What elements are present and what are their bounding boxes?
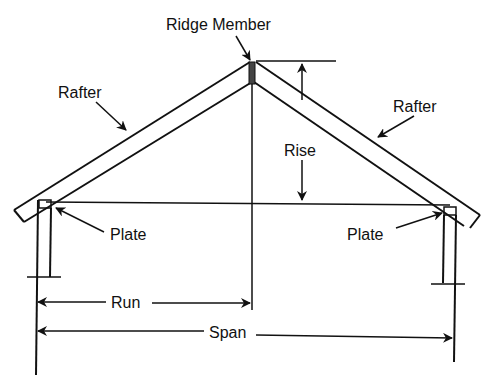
wall-right	[431, 207, 465, 362]
plate-right-arrow	[396, 213, 442, 228]
wall-left	[27, 200, 61, 375]
roof-framing-diagram: Ridge Member Rafter Rafter Rise Plate Pl…	[0, 0, 492, 385]
rafter-left	[14, 62, 252, 222]
rafter-right-arrow	[378, 116, 414, 137]
span-label: Span	[209, 324, 246, 341]
rise-label: Rise	[284, 142, 316, 159]
plate-left-label: Plate	[110, 226, 147, 243]
plate-line	[46, 202, 450, 205]
rafter-left-arrow	[96, 102, 126, 130]
ridge-arrow	[236, 36, 250, 60]
rafter-right-label: Rafter	[393, 98, 437, 115]
ridge-member-label: Ridge Member	[166, 16, 272, 33]
plate-left-arrow	[56, 208, 104, 232]
run-label: Run	[111, 294, 140, 311]
plate-right-label: Plate	[347, 226, 384, 243]
rafter-left-label: Rafter	[58, 84, 102, 101]
ridge-member	[249, 62, 255, 310]
span-arrow-right	[256, 335, 452, 338]
